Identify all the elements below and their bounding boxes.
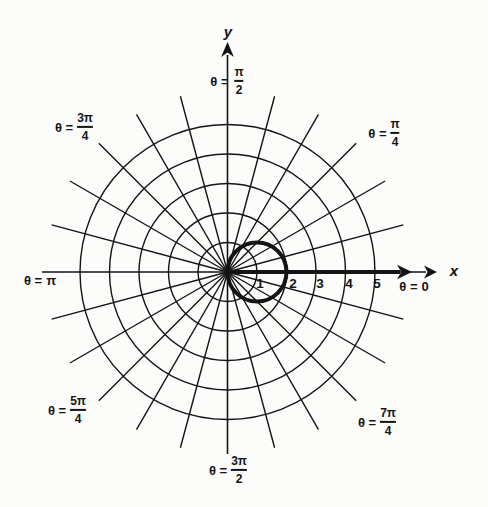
fraction-bar [77,126,93,128]
fraction-numerator: 7π [380,407,396,420]
polar-grid-svg [0,0,488,507]
fraction: π 4 [391,118,400,148]
angle-label-3pi-over-2: θ = 3π 2 [209,455,247,485]
y-axis-label: y [224,23,232,40]
angle-label-prefix: θ = [210,75,228,88]
radial-tick-3: 3 [316,276,324,291]
fraction-denominator: 2 [236,84,243,97]
fraction-denominator: 4 [75,413,82,426]
angle-label-prefix: θ = [55,121,73,134]
angle-label-prefix: θ = [399,280,417,293]
fraction: 3π 4 [77,112,93,142]
fraction-bar [231,469,247,471]
angle-label-pi-over-4: θ = π 4 [368,118,399,148]
fraction: π 2 [235,66,244,96]
angle-label-prefix: θ = [368,127,386,140]
fraction-numerator: 3π [77,112,93,125]
fraction-bar [391,132,400,134]
fraction-bar [70,409,86,411]
fraction: 5π 4 [70,395,86,425]
polar-grid-figure: y x θ = π 2 θ = 3π 4 θ = π 4 θ = π θ = 0 [0,0,488,507]
fraction-bar [235,80,244,82]
fraction-denominator: 4 [82,130,89,143]
x-axis-label: x [450,262,458,279]
fraction-denominator: 4 [392,136,399,149]
angle-label-value: 0 [422,280,429,293]
fraction-denominator: 4 [385,425,392,438]
fraction-numerator: π [235,66,244,79]
radial-tick-1: 1 [256,276,264,291]
fraction-numerator: π [391,118,400,131]
radial-tick-5: 5 [373,276,381,291]
angle-label-pi-over-2: θ = π 2 [210,66,243,96]
fraction: 7π 4 [380,407,396,437]
angle-label-3pi-over-4: θ = 3π 4 [55,112,93,142]
angle-label-zero: θ = 0 [399,280,428,293]
fraction-numerator: 3π [231,455,247,468]
angle-label-prefix: θ = [209,464,227,477]
angle-label-prefix: θ = [48,404,66,417]
angle-label-pi: θ = π [24,274,56,287]
fraction-numerator: 5π [70,395,86,408]
fraction-denominator: 2 [236,473,243,486]
radial-tick-2: 2 [289,276,297,291]
angle-label-value: π [46,274,56,287]
angle-label-5pi-over-4: θ = 5π 4 [48,395,86,425]
angle-label-prefix: θ = [24,274,42,287]
fraction: 3π 2 [231,455,247,485]
angle-label-7pi-over-4: θ = 7π 4 [358,407,396,437]
radial-tick-4: 4 [345,276,353,291]
fraction-bar [380,421,396,423]
angle-label-prefix: θ = [358,416,376,429]
